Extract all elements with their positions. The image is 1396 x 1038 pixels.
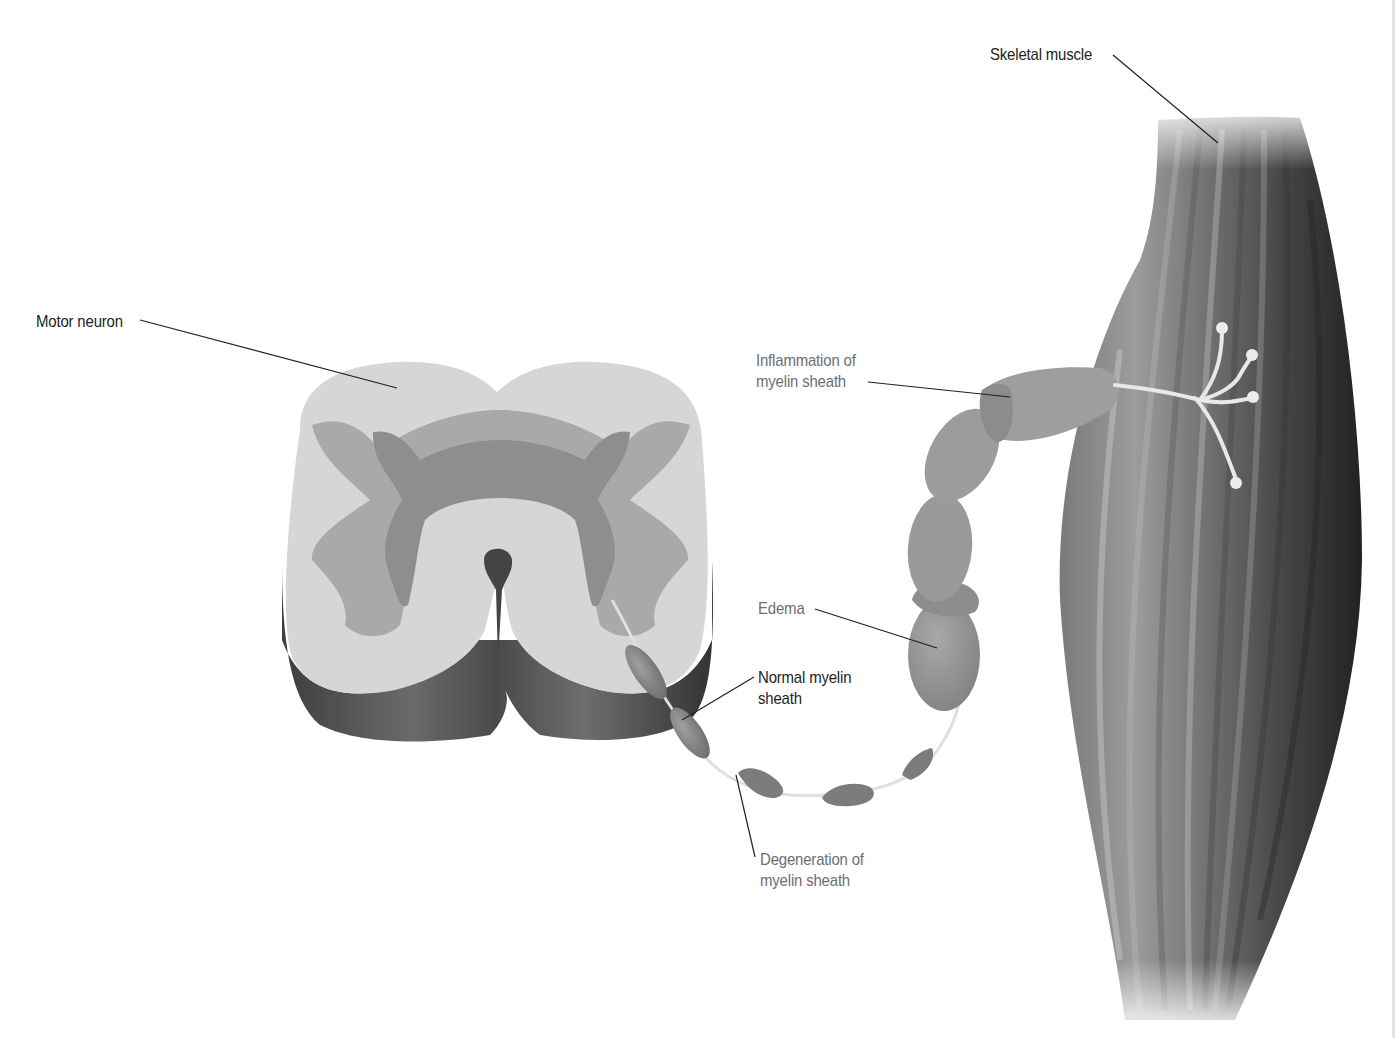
neuron-diagram	[0, 0, 1396, 1038]
label-degeneration-of-myelin-sheath: Degeneration of myelin sheath	[760, 849, 864, 891]
label-motor-neuron: Motor neuron	[36, 311, 123, 332]
label-normal-myelin-sheath: Normal myelin sheath	[758, 667, 851, 709]
label-skeletal-muscle: Skeletal muscle	[990, 44, 1092, 65]
label-inflammation-of-myelin-sheath: Inflammation of myelin sheath	[756, 350, 856, 392]
page-edge	[1392, 0, 1395, 1038]
skeletal-muscle	[1050, 100, 1370, 1038]
label-edema: Edema	[758, 598, 805, 619]
